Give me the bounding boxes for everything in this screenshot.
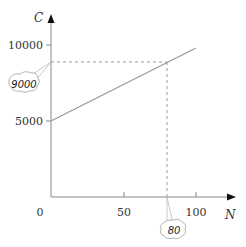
x-tick-label-50: 50: [117, 206, 131, 219]
chart: C N 10000 5000 0 50 100 9000 80: [0, 0, 246, 247]
x-axis-label: N: [224, 208, 236, 222]
callout-9000: 9000: [9, 62, 51, 93]
series-line: [51, 48, 196, 121]
y-tick-label-10000: 10000: [8, 39, 43, 52]
x-tick-label-100: 100: [186, 206, 207, 219]
x-axis-arrow-icon: [227, 194, 236, 201]
callout-9000-text: 9000: [11, 79, 36, 90]
y-axis-label: C: [34, 11, 43, 25]
y-tick-label-5000: 5000: [15, 115, 43, 128]
callout-80: 80: [160, 197, 185, 239]
origin-label: 0: [37, 206, 44, 219]
y-axis-arrow-icon: [48, 14, 55, 23]
callout-80-text: 80: [168, 225, 181, 236]
